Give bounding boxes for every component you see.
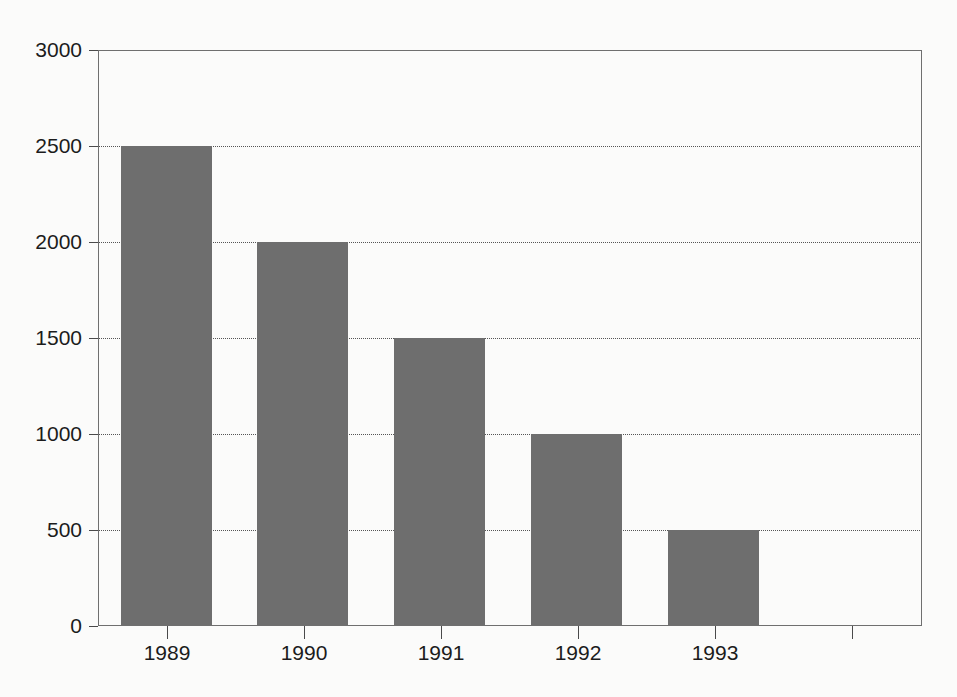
x-tick-mark-1992 <box>578 626 579 639</box>
x-tick-mark-1989 <box>167 626 168 639</box>
x-tick-label-1991: 1991 <box>381 641 501 665</box>
y-tick-label-1000: 1000 <box>2 422 82 446</box>
plot-frame <box>98 50 922 626</box>
y-tick-label-0: 0 <box>2 614 82 638</box>
chart-page: 3000 2500 2000 1500 1000 500 0 1989 1990… <box>0 0 957 697</box>
y-tick-mark-3000 <box>89 50 98 51</box>
y-tick-label-2000: 2000 <box>2 230 82 254</box>
x-tick-mark-1990 <box>304 626 305 639</box>
y-tick-mark-500 <box>89 530 98 531</box>
x-tick-mark-1993 <box>715 626 716 639</box>
y-tick-mark-2500 <box>89 146 98 147</box>
x-tick-label-1993: 1993 <box>655 641 775 665</box>
y-tick-label-2500: 2500 <box>2 134 82 158</box>
x-tick-label-1989: 1989 <box>107 641 227 665</box>
y-tick-label-3000: 3000 <box>2 38 82 62</box>
x-tick-label-1990: 1990 <box>244 641 364 665</box>
y-tick-mark-2000 <box>89 242 98 243</box>
y-tick-label-500: 500 <box>2 518 82 542</box>
x-tick-mark-empty <box>852 626 853 639</box>
chart-title <box>0 0 957 2</box>
x-tick-label-1992: 1992 <box>518 641 638 665</box>
x-tick-mark-1991 <box>441 626 442 639</box>
y-axis: 3000 2500 2000 1500 1000 500 0 <box>0 0 82 697</box>
y-tick-mark-1500 <box>89 338 98 339</box>
y-tick-label-1500: 1500 <box>2 326 82 350</box>
y-tick-mark-1000 <box>89 434 98 435</box>
y-tick-mark-0 <box>89 626 98 627</box>
